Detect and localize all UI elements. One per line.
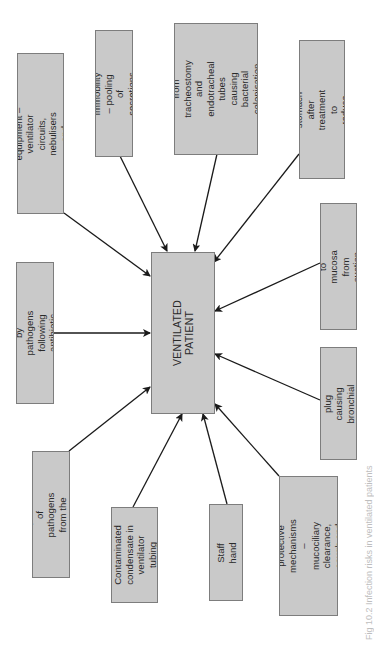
diagram-canvas: VENTILATED PATIENT Contaminated equipmen…	[0, 0, 374, 650]
factor-damage-irritation: Damage and irritation from tracheostomy …	[174, 23, 258, 155]
factor-contaminated-condensate: Contaminated condensate in ventilator tu…	[111, 507, 158, 603]
factor-immobility: Immobility – pooling of secretions	[95, 30, 133, 157]
factor-staff-hand: Staff hand	[209, 504, 243, 601]
factor-label: Aspiration of pathogens from the orophar…	[32, 491, 70, 539]
ventilated-patient-label: VENTILATED PATIENT	[172, 300, 195, 366]
factor-label: Damage and irritation from tracheostomy …	[174, 60, 258, 118]
factor-label: Loss of normal protective mechanisms – m…	[279, 519, 338, 573]
figure-caption: Fig 10.2 Infection risks in ventilated p…	[364, 465, 374, 640]
ventilated-patient-node: VENTILATED PATIENT	[151, 252, 215, 414]
factor-mucus-plug: Mucus plug causing bronchial occlusion	[320, 347, 357, 460]
factor-loss-protective: Loss of normal protective mechanisms – m…	[279, 476, 338, 616]
factor-label: Staff hand	[215, 542, 238, 563]
factor-label: Contaminated condensate in ventilator tu…	[112, 525, 158, 585]
factor-label: Colonisation by pathogens following anti…	[16, 307, 54, 360]
factor-label: Pathogens from the stomach after treatme…	[299, 87, 345, 133]
arrow-staff-hand	[203, 414, 227, 504]
arrow-mucus-plug	[215, 354, 320, 400]
factor-aspiration: Aspiration of pathogens from the orophar…	[32, 451, 70, 578]
factor-label: Trauma to mucosa from suction catheter	[320, 249, 357, 284]
factor-label: Immobility – pooling of secretions	[95, 72, 133, 116]
factor-contaminated-equipment: Contaminated equipment – ventilator circ…	[17, 53, 64, 214]
factor-colonisation-antibiotic: Colonisation by pathogens following anti…	[16, 262, 54, 404]
arrow-trauma-mucosa	[215, 263, 320, 311]
arrow-damage-irritation	[195, 154, 217, 251]
factor-label: Contaminated equipment – ventilator circ…	[17, 104, 64, 164]
arrow-contaminated-equipment	[64, 213, 150, 276]
arrow-aspiration	[69, 387, 150, 451]
arrow-immobility	[120, 156, 167, 251]
arrow-stomach-pathogens	[214, 154, 299, 262]
arrow-contaminated-condensate	[133, 414, 182, 507]
factor-trauma-mucosa: Trauma to mucosa from suction catheter	[320, 203, 357, 330]
arrow-loss-protective	[215, 404, 279, 476]
factor-stomach-pathogens: Pathogens from the stomach after treatme…	[299, 40, 345, 179]
factor-label: Mucus plug causing bronchial occlusion	[320, 384, 357, 424]
